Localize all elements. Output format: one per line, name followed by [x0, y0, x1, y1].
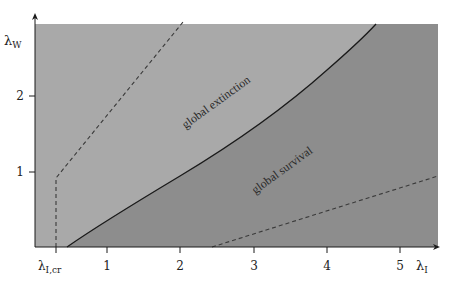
- y-tick-label-1: 1: [16, 165, 24, 179]
- x-tick-label-5: 5: [396, 259, 404, 273]
- phase-diagram-chart: λI,cr 1 2 3 4 5 λI 1 2 λW global extinct…: [0, 0, 452, 287]
- x-tick-label-cr: λI,cr: [38, 259, 62, 275]
- y-axis-label: λW: [4, 33, 22, 50]
- x-axis-label: λI: [416, 258, 428, 275]
- x-tick-label-3: 3: [250, 259, 258, 273]
- x-ticks: [56, 247, 400, 253]
- x-tick-label-2: 2: [176, 259, 184, 273]
- chart-svg: λI,cr 1 2 3 4 5 λI 1 2 λW global extinct…: [0, 0, 452, 287]
- x-tick-label-4: 4: [323, 259, 331, 273]
- y-tick-label-2: 2: [16, 89, 24, 103]
- y-ticks: [29, 96, 35, 172]
- x-tick-label-1: 1: [103, 259, 111, 273]
